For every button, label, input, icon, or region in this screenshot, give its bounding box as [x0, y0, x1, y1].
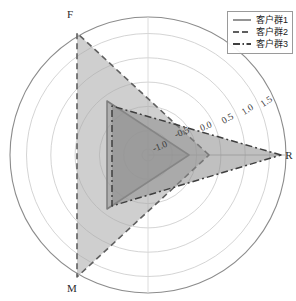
- legend-item-khqun3[interactable]: 客户群3: [232, 38, 288, 50]
- legend-label-khqun3: 客户群3: [256, 39, 288, 49]
- legend-line-dashdot-icon: [232, 39, 252, 49]
- radar-chart-figure: R F M -1.0 -0.5 0.0 0.5 1.0 1.5 客户群1 客户群…: [0, 0, 296, 301]
- legend-label-khqun1: 客户群1: [256, 15, 288, 25]
- axis-label-M: M: [67, 282, 77, 294]
- legend-item-khqun1[interactable]: 客户群1: [232, 14, 288, 26]
- legend-item-khqun2[interactable]: 客户群2: [232, 26, 288, 38]
- axis-label-R: R: [285, 149, 293, 161]
- legend-label-khqun2: 客户群2: [256, 27, 288, 37]
- legend-line-dashed-icon: [232, 27, 252, 37]
- chart-legend: 客户群1 客户群2 客户群3: [227, 11, 293, 54]
- legend-line-solid-icon: [232, 15, 252, 25]
- axis-label-F: F: [67, 8, 73, 20]
